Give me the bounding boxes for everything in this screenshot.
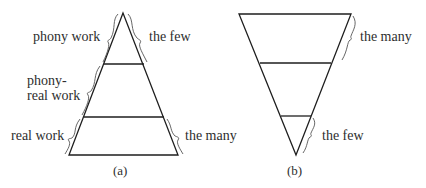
label-the-many-a: the many bbox=[185, 128, 237, 143]
caption-a: (a) bbox=[113, 163, 127, 179]
label-real-work-line2: real work bbox=[27, 88, 80, 103]
label-the-few-a: the few bbox=[149, 29, 191, 44]
caption-b: (b) bbox=[287, 163, 302, 179]
label-the-many-b: the many bbox=[360, 29, 412, 44]
label-the-few-b: the few bbox=[322, 128, 364, 143]
brace-the-many-b bbox=[342, 16, 355, 60]
brace-the-few-a bbox=[128, 14, 147, 62]
label-phony-work: phony work bbox=[33, 29, 100, 44]
brace-phony-work bbox=[103, 14, 118, 62]
brace-real-work bbox=[65, 119, 80, 154]
label-phony-line1: phony- bbox=[27, 73, 67, 88]
label-real-work: real work bbox=[11, 128, 64, 143]
brace-phony-real-work bbox=[82, 66, 100, 115]
